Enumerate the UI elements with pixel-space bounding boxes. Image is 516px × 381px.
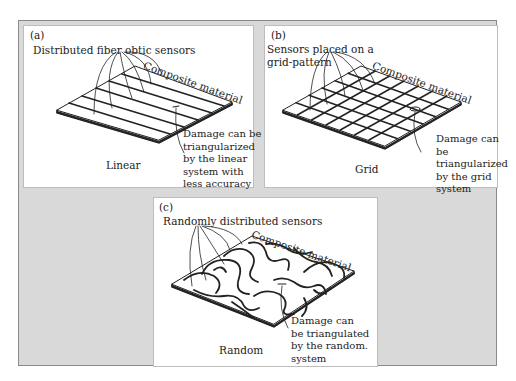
sensor-label: Distributed fiber obtic sensors: [33, 44, 195, 57]
panel-caption: Linear: [106, 159, 141, 172]
panel-label: (b): [271, 29, 286, 42]
panel-caption: Random: [219, 344, 263, 357]
damage-note: Damage can be triangulated by the random…: [291, 315, 369, 365]
damage-note: Damage can be triangularized by the line…: [183, 128, 261, 191]
sensor-label: Sensors placed on a grid-pattern: [267, 43, 374, 68]
panel-label: (a): [30, 29, 44, 42]
panel-random: (c) Randomly distributed sensors Composi…: [153, 197, 378, 367]
panel-label: (c): [159, 201, 173, 214]
figure-frame: (a) Distributed fiber obtic sensors Comp…: [18, 20, 497, 366]
panel-caption: Grid: [355, 163, 379, 176]
panel-linear: (a) Distributed fiber obtic sensors Comp…: [23, 25, 254, 188]
sensor-label: Randomly distributed sensors: [163, 215, 322, 228]
damage-note: Damage can be triangularized by the grid…: [436, 133, 508, 196]
panel-grid: (b) Sensors placed on a grid-pattern Com…: [264, 25, 498, 188]
